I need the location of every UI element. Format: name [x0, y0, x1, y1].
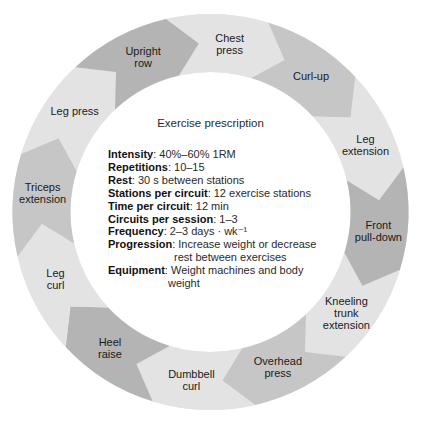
rx-value: : 30 s between stations [132, 174, 245, 186]
rx-key: Progression [108, 238, 172, 250]
rx-key: Stations per circuit [108, 187, 208, 199]
rx-equipment-cont: weight [108, 277, 328, 290]
rx-key: Time per circuit [108, 200, 190, 212]
rx-frequency: Frequency: 2–3 days · wk⁻¹ [108, 225, 328, 238]
rx-time: Time per circuit: 12 min [108, 200, 328, 213]
prescription-list: Intensity: 40%–60% 1RM Repetitions: 10–1… [108, 148, 328, 290]
rx-progression: Progression: Increase weight or decrease [108, 238, 328, 251]
rx-rest: Rest: 30 s between stations [108, 174, 328, 187]
rx-value: : 10–15 [168, 161, 205, 173]
rx-key: Frequency [108, 225, 164, 237]
station-label: Heelraise [98, 336, 122, 360]
rx-value: : 2–3 days · wk⁻¹ [164, 225, 248, 237]
rx-stations: Stations per circuit: 12 exercise statio… [108, 187, 328, 200]
rx-value: : 1–3 [213, 213, 237, 225]
rx-repetitions: Repetitions: 10–15 [108, 161, 328, 174]
rx-value: : 12 min [190, 200, 229, 212]
rx-key: Rest [108, 174, 132, 186]
rx-key: Repetitions [108, 161, 168, 173]
rx-intensity: Intensity: 40%–60% 1RM [108, 148, 328, 161]
prescription-title: Exercise prescription [0, 117, 421, 129]
station-label: Leg press [50, 105, 99, 117]
station-label: Chestpress [215, 32, 244, 56]
rx-key: Equipment [108, 264, 165, 276]
rx-value: : Weight machines and body [165, 264, 304, 276]
rx-value: : Increase weight or decrease [172, 238, 316, 250]
rx-circuits: Circuits per session: 1–3 [108, 213, 328, 226]
station-label: Curl-up [293, 70, 329, 82]
rx-equipment: Equipment: Weight machines and body [108, 264, 328, 277]
station-label: Tricepsextension [19, 181, 66, 205]
rx-key: Circuits per session [108, 213, 213, 225]
rx-key: Intensity [108, 148, 153, 160]
rx-progression-cont: rest between exercises [108, 251, 328, 264]
rx-value: : 40%–60% 1RM [153, 148, 236, 160]
station-label: Legcurl [46, 267, 64, 291]
rx-value: : 12 exercise stations [208, 187, 311, 199]
